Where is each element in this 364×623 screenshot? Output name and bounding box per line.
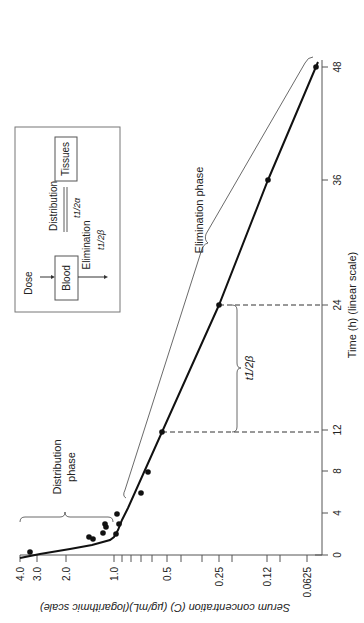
y-tick-0.5: 0.5 [162, 567, 173, 581]
dose-arrowhead [51, 275, 55, 279]
y-axis-label: Serum concentration (C) (µg/mL)(logarith… [40, 602, 291, 614]
distribution-phase-bracket [20, 512, 113, 522]
distribution-halflife-label: t1/2α [72, 197, 82, 218]
concentration-axis [20, 555, 322, 562]
concentration-axis-ticks: 4.0 3.0 2.0 1.0 0.5 0.25 0.12 0.0625 [15, 567, 313, 598]
y-tick-0.25: 0.25 [214, 567, 225, 587]
fitted-curve [20, 62, 318, 558]
time-axis [315, 60, 328, 555]
distribution-phase-label-1: Distribution [51, 439, 63, 494]
half-life-guides [162, 305, 322, 432]
x-axis-label: Time (h) (linear scale) [346, 252, 358, 359]
pharmacokinetic-chart: 48 36 24 12 8 4 0 Time (h) (linear scale… [0, 0, 364, 623]
blood-label: Blood [61, 265, 72, 291]
half-life-bracket [232, 305, 241, 432]
y-tick-2: 2.0 [61, 567, 72, 581]
y-tick-4: 4.0 [15, 567, 26, 581]
x-tick-8: 8 [332, 468, 343, 474]
half-life-beta-label: t1/2β [243, 355, 255, 380]
distribution-phase-label-2: phase [65, 452, 77, 482]
x-tick-36: 36 [332, 174, 343, 186]
time-axis-ticks: 48 36 24 12 8 4 0 [332, 61, 343, 558]
x-tick-4: 4 [332, 510, 343, 516]
distribution-label: Distribution [48, 181, 59, 231]
y-tick-0.0625: 0.0625 [302, 567, 313, 598]
x-tick-12: 12 [332, 424, 343, 436]
dose-label: Dose [23, 271, 34, 295]
elimination-halflife-label: t1/2β [96, 230, 106, 250]
y-tick-0.12: 0.12 [262, 567, 273, 587]
x-tick-0: 0 [332, 552, 343, 558]
elimination-arrowhead [104, 275, 108, 279]
compartment-diagram: Dose Blood Elimination t1/2β Distributio… [15, 127, 120, 312]
y-tick-1: 1.0 [109, 567, 120, 581]
x-tick-48: 48 [332, 61, 343, 73]
elimination-label: Elimination [81, 221, 92, 270]
y-tick-3: 3.0 [32, 567, 43, 581]
tissues-label: Tissues [60, 142, 71, 176]
x-tick-24: 24 [332, 299, 343, 311]
elimination-phase-label: Elimination phase [193, 167, 205, 254]
